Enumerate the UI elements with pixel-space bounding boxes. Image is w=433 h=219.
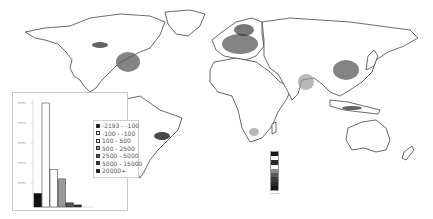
density-eastern-us bbox=[116, 52, 140, 72]
histogram-bar bbox=[34, 193, 42, 207]
density-se-brazil bbox=[154, 132, 170, 140]
madagascar bbox=[272, 122, 276, 134]
greenland bbox=[165, 10, 205, 36]
density-great-lakes bbox=[92, 42, 108, 48]
density-india bbox=[298, 74, 314, 90]
legend-label: -100 - -100 bbox=[102, 130, 135, 137]
legend-swatch bbox=[96, 169, 100, 173]
legend-item: -2193 - -100 bbox=[96, 122, 136, 130]
density-south-africa bbox=[249, 128, 259, 136]
new-zealand bbox=[402, 146, 414, 160]
density-china bbox=[333, 60, 359, 80]
legend-label: 5000 - 15000 bbox=[102, 160, 142, 167]
colorbar-segment bbox=[271, 186, 278, 190]
histogram-bar bbox=[50, 170, 58, 207]
legend-label: 2500 - 5000 bbox=[102, 152, 139, 159]
density-scandinavia bbox=[234, 24, 254, 36]
legend-label: 100 - 500 bbox=[102, 137, 131, 144]
australia bbox=[346, 120, 390, 152]
histogram-bars bbox=[34, 103, 82, 207]
legend-swatch bbox=[96, 154, 100, 158]
density-europe bbox=[222, 34, 258, 54]
legend-item: 2500 - 5000 bbox=[96, 152, 136, 160]
legend-swatch bbox=[96, 139, 100, 143]
legend-label: 500 - 2500 bbox=[102, 145, 135, 152]
legend-swatch bbox=[96, 146, 100, 150]
legend-swatch bbox=[96, 161, 100, 165]
histogram-bar bbox=[42, 103, 50, 207]
histogram-inset: -2193 - -100 -100 - -100 100 - 500 500 -… bbox=[12, 92, 128, 211]
colorbar bbox=[270, 151, 279, 191]
legend-item: 5000 - 15000 bbox=[96, 160, 136, 168]
legend: -2193 - -100 -100 - -100 100 - 500 500 -… bbox=[93, 120, 139, 178]
legend-item: 20000+ bbox=[96, 167, 136, 175]
colorbar-base bbox=[270, 193, 279, 194]
legend-item: -100 - -100 bbox=[96, 130, 136, 138]
legend-label: -2193 - -100 bbox=[102, 122, 139, 129]
density-java bbox=[342, 106, 362, 110]
histogram-bar bbox=[74, 205, 82, 207]
legend-item: 500 - 2500 bbox=[96, 145, 136, 153]
legend-swatch bbox=[96, 131, 100, 135]
histogram-bar bbox=[66, 203, 74, 207]
histogram-bar bbox=[58, 179, 66, 207]
north-america bbox=[25, 14, 165, 92]
y-axis bbox=[18, 99, 33, 207]
legend-swatch bbox=[96, 124, 100, 128]
legend-item: 100 - 500 bbox=[96, 137, 136, 145]
legend-label: 20000+ bbox=[102, 167, 126, 174]
